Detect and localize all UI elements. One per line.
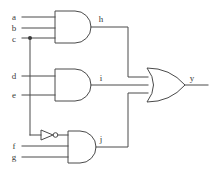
and-bottom-body — [68, 131, 96, 163]
circuit-canvas: a b c d e f g h i j y — [0, 0, 215, 172]
input-label-e: e — [12, 90, 16, 100]
gate-and-middle — [55, 69, 91, 101]
and-middle-body — [55, 69, 91, 101]
wire-j-to-or — [96, 93, 148, 147]
input-label-f: f — [13, 141, 16, 151]
or-gate-body — [147, 68, 185, 102]
and-top-body — [55, 11, 91, 43]
signal-label-j: j — [99, 134, 103, 144]
gate-and-bottom — [68, 131, 96, 163]
signal-label-i: i — [100, 73, 103, 83]
logic-circuit-diagram: a b c d e f g h i j y — [0, 0, 215, 172]
output-label-y: y — [190, 73, 195, 83]
input-label-b: b — [12, 23, 17, 33]
signal-label-h: h — [99, 14, 104, 24]
input-label-a: a — [12, 12, 16, 22]
junction-dot-c — [28, 36, 32, 40]
inverter-bubble-icon — [53, 133, 58, 138]
input-label-g: g — [12, 152, 17, 162]
input-label-d: d — [12, 71, 17, 81]
gate-or-output — [147, 68, 185, 102]
gate-and-top — [55, 11, 91, 43]
gate-inverter-c — [41, 130, 58, 140]
wire-h-to-or — [91, 27, 148, 77]
input-label-c: c — [12, 34, 16, 44]
inverter-triangle — [41, 130, 53, 140]
